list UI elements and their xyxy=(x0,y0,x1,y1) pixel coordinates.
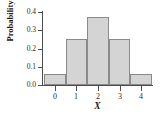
y-axis-tick xyxy=(38,49,43,50)
x-axis-tick-label: 3 xyxy=(110,92,130,101)
x-axis-tick-label: 0 xyxy=(45,92,65,101)
bar-2 xyxy=(87,17,109,85)
y-axis-tick-label: 0.2 xyxy=(6,44,36,53)
bar-4 xyxy=(130,74,152,85)
x-axis-tick xyxy=(76,86,77,91)
x-axis-tick-label: 4 xyxy=(131,92,151,101)
x-axis-tick xyxy=(55,86,56,91)
x-axis-tick xyxy=(120,86,121,91)
x-axis-tick-label: 1 xyxy=(66,92,86,101)
y-axis-tick xyxy=(38,30,43,31)
y-axis-tick-label: 0.0 xyxy=(6,80,36,89)
x-axis-tick xyxy=(98,86,99,91)
y-axis-tick xyxy=(38,67,43,68)
y-axis-tick xyxy=(38,12,43,13)
bar-3 xyxy=(109,39,131,85)
probability-histogram-figure: Probability 0.00.10.20.30.4 01234 X xyxy=(0,0,163,116)
y-axis-tick-label: 0.1 xyxy=(6,62,36,71)
x-axis-tick-label: 2 xyxy=(88,92,108,101)
x-axis-tick xyxy=(141,86,142,91)
bar-1 xyxy=(66,39,88,85)
y-axis-tick-label: 0.3 xyxy=(6,25,36,34)
plot-area xyxy=(44,12,152,85)
bar-0 xyxy=(44,74,66,85)
x-axis-title: X xyxy=(42,101,153,111)
y-axis-tick xyxy=(38,85,43,86)
y-axis-tick-label: 0.4 xyxy=(6,7,36,16)
